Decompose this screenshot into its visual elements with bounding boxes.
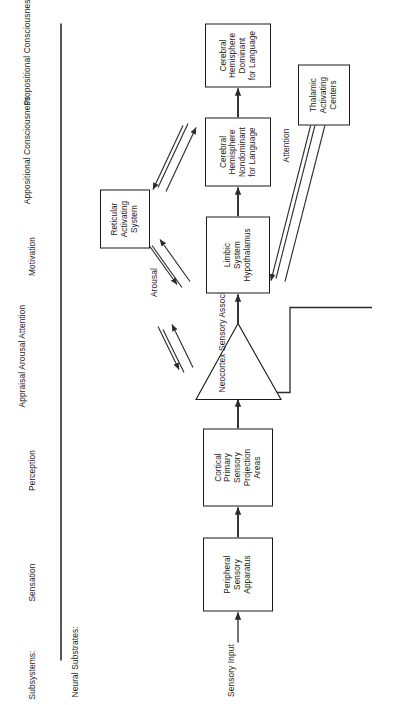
arrow-limbic-to-thalamic-a — [285, 105, 330, 281]
figure-root: Subsystems: Neural Substrates: Sensation… — [0, 0, 398, 705]
node-cerebral-hemisphere-nondominant[interactable]: Cerebral Hemisphere Nondominant for Lang… — [205, 117, 271, 186]
node-cerebral-hemisphere-dominant[interactable]: Cerebral Hemisphere Dominant for Languag… — [205, 23, 271, 87]
arrow-ras-to-thalamic-a — [166, 127, 196, 191]
edge-label-arousal: Arousal — [149, 257, 159, 307]
arrow-thalamic-to-limbic-a — [271, 104, 316, 280]
node-reticular-activating-system[interactable]: Reticular Activating System — [100, 189, 150, 248]
edge-label-attention: Attention — [281, 117, 291, 173]
node-peripheral-sensory-apparatus[interactable]: Peripheral Sensory Apparatus — [203, 537, 273, 611]
node-sensory-input: Sensory Input — [226, 641, 236, 699]
diagram-canvas: Subsystems: Neural Substrates: Sensation… — [0, 0, 398, 705]
arrow-neocortex-to-ras-b — [163, 329, 184, 372]
arrow-thalamic-to-ras-a — [153, 125, 183, 189]
neocortex-triangle — [196, 323, 281, 399]
node-limbic-system-hypothalamus[interactable]: Limbic System Hypothalamus — [206, 216, 270, 293]
node-thalamic-activating-centers[interactable]: Thalamic Activating Centers — [298, 64, 350, 125]
node-neocortex-sensory-association-areas[interactable]: Neocortex Sensory Association Areas — [217, 320, 227, 392]
node-cortical-primary-sensory-projection-areas[interactable]: Cortical Primary Sensory Projection Area… — [203, 428, 273, 506]
arrow-limbic-to-ras-a — [160, 239, 190, 281]
